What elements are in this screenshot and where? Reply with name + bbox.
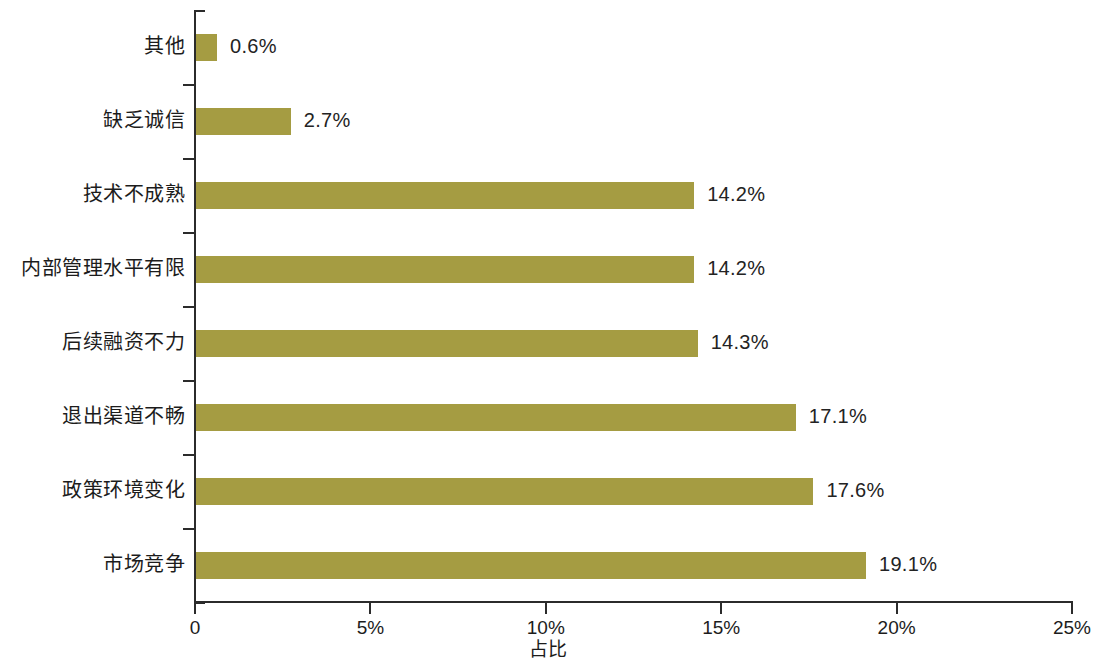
value-label: 2.7%	[304, 110, 351, 130]
bar	[196, 478, 813, 505]
bar	[196, 404, 796, 431]
x-axis-tick	[545, 603, 547, 614]
y-axis-tick	[183, 380, 195, 382]
value-label: 17.6%	[826, 480, 884, 500]
bar	[196, 108, 291, 135]
y-axis-tick	[183, 306, 195, 308]
category-label: 其他	[0, 36, 185, 56]
bar	[196, 34, 217, 61]
x-axis-tick-label: 0	[190, 618, 201, 637]
x-axis-tick	[896, 603, 898, 614]
value-label: 14.2%	[707, 184, 765, 204]
y-axis-tick	[183, 158, 195, 160]
x-axis-tick	[194, 603, 196, 614]
bar-chart: 其他缺乏诚信技术不成熟内部管理水平有限后续融资不力退出渠道不畅政策环境变化市场竞…	[0, 0, 1095, 662]
x-axis-title: 占比	[0, 640, 1095, 659]
x-axis-tick	[1071, 603, 1073, 614]
category-label: 技术不成熟	[0, 184, 185, 204]
x-axis-tick	[369, 603, 371, 614]
x-axis-tick-label: 10%	[527, 618, 565, 637]
value-label: 19.1%	[879, 554, 937, 574]
bar	[196, 256, 694, 283]
x-axis-tick-label: 25%	[1053, 618, 1091, 637]
x-axis-tick-label: 5%	[357, 618, 384, 637]
bar	[196, 330, 698, 357]
bar	[196, 182, 694, 209]
y-axis-tick	[183, 454, 195, 456]
category-label: 内部管理水平有限	[0, 258, 185, 278]
value-label: 14.2%	[707, 258, 765, 278]
category-label: 政策环境变化	[0, 480, 185, 500]
value-label: 0.6%	[230, 36, 277, 56]
y-axis-tick	[194, 10, 205, 12]
y-axis-tick	[183, 232, 195, 234]
category-label: 后续融资不力	[0, 332, 185, 352]
x-axis-tick	[720, 603, 722, 614]
x-axis-tick-label: 20%	[878, 618, 916, 637]
category-label: 退出渠道不畅	[0, 406, 185, 426]
y-axis-tick	[183, 528, 195, 530]
x-axis-line	[194, 601, 1073, 603]
bar	[196, 552, 866, 579]
value-label: 17.1%	[809, 406, 867, 426]
category-label: 市场竞争	[0, 554, 185, 574]
y-axis-tick	[183, 84, 195, 86]
category-label: 缺乏诚信	[0, 110, 185, 130]
value-label: 14.3%	[711, 332, 769, 352]
x-axis-tick-label: 15%	[702, 618, 740, 637]
